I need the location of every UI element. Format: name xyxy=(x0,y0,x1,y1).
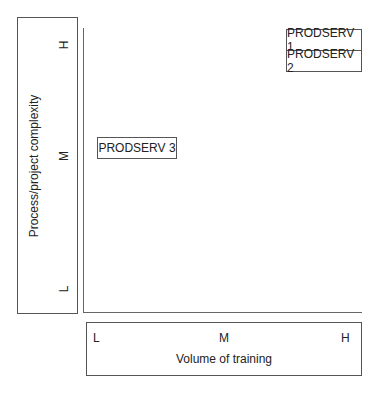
x-axis-line xyxy=(83,312,362,313)
y-tick-medium: M xyxy=(57,150,71,162)
x-axis-label: Volume of training xyxy=(86,352,362,366)
item-label: PRODSERV 2 xyxy=(287,47,361,75)
y-tick-low: L xyxy=(57,283,71,295)
item-label: PRODSERV 3 xyxy=(98,141,175,155)
item-prodserv-3: PRODSERV 3 xyxy=(97,137,177,159)
x-tick-medium: M xyxy=(219,331,229,345)
y-tick-high: H xyxy=(57,39,71,51)
y-axis-label: Process/project complexity xyxy=(27,94,41,237)
item-prodserv-2: PRODSERV 2 xyxy=(286,50,362,72)
x-tick-high: H xyxy=(341,331,350,345)
x-tick-low: L xyxy=(93,331,100,345)
y-axis-line xyxy=(83,28,84,313)
y-axis-label-container: Process/project complexity xyxy=(17,17,78,314)
